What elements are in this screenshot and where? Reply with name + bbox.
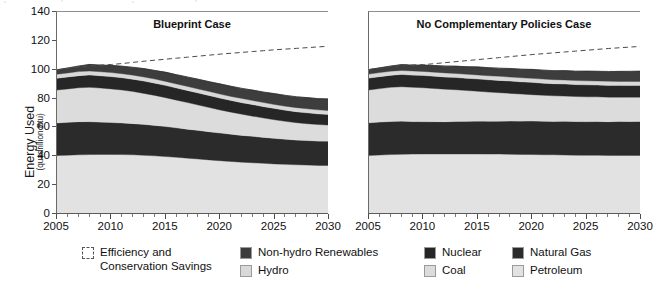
- x-tick-minor: [575, 214, 576, 217]
- x-tick-major: [531, 214, 532, 219]
- x-axis-line: [368, 213, 640, 214]
- efficiency-swatch-icon: [82, 247, 94, 259]
- x-tick-major: [56, 214, 57, 219]
- x-tick-major: [165, 214, 166, 219]
- legend-item-non-hydro-renewables: Non-hydro Renewables: [240, 246, 378, 260]
- legend-item-petroleum: Petroleum: [512, 264, 582, 278]
- x-tick-label: 2020: [518, 220, 544, 232]
- x-tick-minor: [100, 214, 101, 217]
- legend-item-coal: Coal: [424, 264, 466, 278]
- x-tick-minor: [132, 214, 133, 217]
- legend-label-natural-gas: Natural Gas: [530, 246, 591, 260]
- x-tick-minor: [241, 214, 242, 217]
- natural-gas-swatch-icon: [512, 247, 524, 259]
- panel-no-complementary-policies-case: No Complementary Policies Case: [368, 11, 640, 214]
- chart-legend: Efficiency andConservation Savings Non-h…: [0, 243, 648, 295]
- x-tick-minor: [401, 214, 402, 217]
- y-tick-label: 40: [22, 149, 50, 161]
- x-tick-minor: [412, 214, 413, 217]
- x-tick-label: 2030: [627, 220, 653, 232]
- y-tick-label: 60: [22, 120, 50, 132]
- x-tick-label: 2005: [355, 220, 381, 232]
- x-tick-minor: [317, 214, 318, 217]
- plot-area-right: [368, 11, 640, 214]
- x-tick-minor: [629, 214, 630, 217]
- x-tick-label: 2010: [98, 220, 124, 232]
- x-tick-minor: [187, 214, 188, 217]
- non-hydro-renewables-swatch-icon: [240, 247, 252, 259]
- x-tick-label: 2005: [43, 220, 69, 232]
- legend-label-hydro: Hydro: [258, 264, 289, 278]
- y-tick-mark: [52, 98, 56, 99]
- y-tick-mark: [52, 126, 56, 127]
- hydro-swatch-icon: [240, 265, 252, 277]
- x-tick-minor: [78, 214, 79, 217]
- x-tick-minor: [230, 214, 231, 217]
- legend-label-coal: Coal: [442, 264, 466, 278]
- y-tick-label: 80: [22, 92, 50, 104]
- area-band-petroleum: [369, 154, 640, 214]
- y-axis-tick-labels: 140120100806040200: [22, 0, 50, 215]
- x-tick-minor: [542, 214, 543, 217]
- x-tick-major: [422, 214, 423, 219]
- x-tick-minor: [618, 214, 619, 217]
- x-tick-major: [477, 214, 478, 219]
- x-tick-label: 2010: [410, 220, 436, 232]
- stacked-area-svg: [57, 12, 328, 214]
- x-tick-minor: [121, 214, 122, 217]
- x-tick-minor: [263, 214, 264, 217]
- x-tick-minor: [466, 214, 467, 217]
- x-tick-minor: [596, 214, 597, 217]
- x-tick-minor: [488, 214, 489, 217]
- x-tick-label: 2025: [573, 220, 599, 232]
- x-tick-minor: [553, 214, 554, 217]
- x-tick-major: [219, 214, 220, 219]
- x-tick-minor: [89, 214, 90, 217]
- x-tick-major: [110, 214, 111, 219]
- scan-artifact: [0, 0, 648, 4]
- x-tick-minor: [143, 214, 144, 217]
- x-axis-line: [56, 213, 328, 214]
- y-tick-label: 140: [22, 5, 50, 17]
- stacked-area-svg: [369, 12, 640, 214]
- x-tick-minor: [509, 214, 510, 217]
- x-tick-minor: [197, 214, 198, 217]
- x-tick-label: 2025: [261, 220, 287, 232]
- x-tick-label: 2020: [206, 220, 232, 232]
- legend-label-nuclear: Nuclear: [442, 246, 482, 260]
- x-tick-minor: [176, 214, 177, 217]
- y-tick-mark: [52, 155, 56, 156]
- x-tick-minor: [607, 214, 608, 217]
- legend-item-hydro: Hydro: [240, 264, 289, 278]
- panel-blueprint-case: Blueprint Case: [56, 11, 328, 214]
- legend-label-efficiency: Efficiency andConservation Savings: [100, 246, 212, 273]
- legend-item-efficiency: Efficiency andConservation Savings: [82, 246, 212, 273]
- nuclear-swatch-icon: [424, 247, 436, 259]
- panel-title-right: No Complementary Policies Case: [368, 18, 640, 30]
- x-tick-minor: [306, 214, 307, 217]
- x-tick-minor: [390, 214, 391, 217]
- area-band-natural-gas: [369, 121, 640, 156]
- legend-label-petroleum: Petroleum: [530, 264, 582, 278]
- x-tick-minor: [295, 214, 296, 217]
- x-tick-minor: [208, 214, 209, 217]
- x-tick-minor: [252, 214, 253, 217]
- legend-item-nuclear: Nuclear: [424, 246, 482, 260]
- x-tick-minor: [520, 214, 521, 217]
- x-tick-minor: [154, 214, 155, 217]
- x-tick-label: 2030: [315, 220, 341, 232]
- y-tick-mark: [52, 40, 56, 41]
- y-tick-mark: [52, 69, 56, 70]
- y-tick-label: 0: [22, 207, 50, 219]
- x-tick-minor: [455, 214, 456, 217]
- y-tick-mark: [52, 213, 56, 214]
- legend-label-non-hydro-renewables: Non-hydro Renewables: [258, 246, 378, 260]
- x-tick-minor: [379, 214, 380, 217]
- x-tick-minor: [284, 214, 285, 217]
- x-tick-major: [328, 214, 329, 219]
- x-tick-label: 2015: [464, 220, 490, 232]
- x-tick-minor: [444, 214, 445, 217]
- y-tick-label: 120: [22, 34, 50, 46]
- x-tick-minor: [499, 214, 500, 217]
